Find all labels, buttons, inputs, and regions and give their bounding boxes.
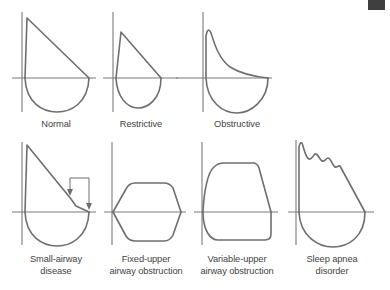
figure-canvas: Normal Restrictive Obstructive bbox=[0, 0, 390, 290]
small-airway-annotation-arrow-right bbox=[86, 203, 92, 210]
panel-label-variable-upper-line2: airway obstruction bbox=[200, 266, 273, 276]
flow-volume-loop-figure: Normal Restrictive Obstructive bbox=[0, 0, 390, 290]
panel-obstructive: Obstructive bbox=[176, 12, 272, 129]
panel-normal: Normal bbox=[12, 12, 96, 129]
panel-label-fixed-upper-line2: airway obstruction bbox=[109, 266, 182, 276]
panel-variable-upper-airway-obstruction: Variable-upper airway obstruction bbox=[194, 142, 278, 276]
restrictive-expiratory-limb bbox=[116, 32, 161, 78]
panel-label-small-airway-line1: Small-airway bbox=[30, 254, 82, 264]
sleep-apnea-inspiratory-limb bbox=[299, 212, 365, 247]
fixed-upper-inspiratory-limb bbox=[113, 212, 181, 241]
normal-inspiratory-limb bbox=[25, 78, 89, 112]
sleep-apnea-expiratory-limb bbox=[299, 143, 365, 212]
variable-upper-expiratory-limb bbox=[203, 163, 271, 212]
small-airway-inspiratory-limb bbox=[25, 212, 89, 246]
panel-sleep-apnea-disorder: Sleep apnea disorder bbox=[288, 140, 374, 276]
panel-label-obstructive: Obstructive bbox=[214, 119, 260, 129]
panel-label-sleep-apnea-line2: disorder bbox=[316, 266, 349, 276]
variable-upper-inspiratory-limb bbox=[203, 212, 271, 240]
panel-label-sleep-apnea-line1: Sleep apnea bbox=[306, 254, 358, 264]
panel-label-fixed-upper-line1: Fixed-upper bbox=[122, 254, 171, 264]
normal-expiratory-limb bbox=[25, 18, 89, 78]
corner-marker bbox=[368, 0, 385, 10]
restrictive-inspiratory-limb bbox=[116, 78, 161, 108]
panel-small-airway-disease: Small-airway disease bbox=[12, 142, 96, 276]
panel-label-variable-upper-line1: Variable-upper bbox=[208, 254, 267, 264]
panel-label-restrictive: Restrictive bbox=[120, 119, 162, 129]
panel-fixed-upper-airway-obstruction: Fixed-upper airway obstruction bbox=[104, 142, 186, 276]
obstructive-inspiratory-limb bbox=[206, 78, 268, 113]
fixed-upper-expiratory-limb bbox=[113, 183, 181, 212]
obstructive-expiratory-limb bbox=[206, 30, 268, 78]
panel-label-normal: Normal bbox=[41, 119, 70, 129]
panel-label-small-airway-line2: disease bbox=[40, 266, 71, 276]
panel-restrictive: Restrictive bbox=[103, 12, 178, 129]
